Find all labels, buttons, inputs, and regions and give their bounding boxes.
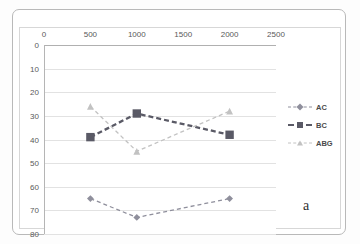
legend-item-ABG[interactable]: ABG	[288, 134, 350, 152]
legend-label-BC: BC	[316, 121, 327, 130]
y-tick-label-60: 60	[30, 182, 39, 191]
data-point-ABG-500	[87, 103, 94, 110]
data-point-BC-2000	[225, 131, 233, 139]
series-line-AC	[90, 199, 229, 218]
plot-region: 01020304050607080 05001000150020002500	[44, 45, 276, 234]
legend-label-ABG: ABG	[316, 139, 333, 148]
y-tick-label-80: 80	[30, 230, 39, 239]
legend-diamond-marker	[296, 103, 303, 110]
legend-triangle-marker	[297, 141, 303, 146]
y-tick-label-20: 20	[30, 88, 39, 97]
series-AC	[87, 195, 233, 221]
data-point-AC-1000	[133, 214, 140, 221]
legend-item-BC[interactable]: BC	[288, 116, 350, 134]
series-line-BC	[90, 114, 229, 138]
data-point-BC-500	[86, 133, 94, 141]
panel-letter-label: a	[303, 198, 309, 214]
data-point-AC-500	[87, 195, 94, 202]
data-point-ABG-1000	[133, 148, 140, 155]
legend: ACBCABG	[288, 98, 350, 152]
series-line-ABG	[90, 106, 229, 151]
y-tick-label-10: 10	[30, 64, 39, 73]
data-point-ABG-2000	[226, 108, 233, 115]
legend-key-ABG	[288, 138, 312, 148]
legend-item-AC[interactable]: AC	[288, 98, 350, 116]
series-BC	[86, 109, 234, 141]
x-tick-label-500: 500	[84, 30, 97, 39]
gridline-y-80	[44, 234, 276, 235]
x-tick-label-1000: 1000	[128, 30, 146, 39]
legend-label-AC: AC	[316, 103, 327, 112]
legend-key-BC	[288, 120, 312, 130]
data-point-BC-1000	[133, 109, 141, 117]
legend-square-marker	[297, 122, 303, 128]
y-tick-label-40: 40	[30, 135, 39, 144]
x-tick-label-1500: 1500	[174, 30, 192, 39]
y-tick-label-0: 0	[35, 41, 39, 50]
figure-panel: 01020304050607080 05001000150020002500 A…	[0, 0, 360, 244]
y-tick-label-30: 30	[30, 111, 39, 120]
x-tick-label-2000: 2000	[221, 30, 239, 39]
y-tick-label-50: 50	[30, 159, 39, 168]
x-tick-label-2500: 2500	[267, 30, 285, 39]
data-point-AC-2000	[226, 195, 233, 202]
series-layer	[44, 45, 276, 234]
legend-key-AC	[288, 102, 312, 112]
x-tick-label-0: 0	[42, 30, 46, 39]
y-tick-label-70: 70	[30, 206, 39, 215]
